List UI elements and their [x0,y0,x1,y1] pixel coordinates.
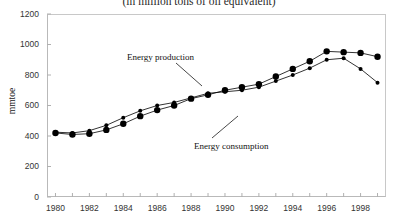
data-point-production [359,67,363,71]
data-series-layer [52,48,380,138]
data-point-consumption [323,48,329,54]
annotation-energy-consumption: Energy consumption [194,141,269,151]
annotation-leader-lines [176,63,238,138]
energy-chart: (in million tons of oil equivalent) mmto… [0,0,398,220]
leader-line-production [176,63,202,86]
chart-canvas [0,0,398,220]
data-point-consumption [188,95,194,101]
data-point-consumption [256,81,262,87]
data-point-consumption [239,84,245,90]
data-point-production [308,66,312,70]
data-point-consumption [171,102,177,108]
data-point-consumption [273,73,279,79]
data-point-production [121,116,125,120]
data-point-consumption [137,113,143,119]
axis-ticks [47,14,378,197]
data-point-consumption [103,127,109,133]
data-point-consumption [290,66,296,72]
data-point-consumption [357,50,363,56]
data-point-consumption [120,121,126,127]
data-point-consumption [222,87,228,93]
data-point-production [138,109,142,113]
data-point-consumption [374,54,380,60]
data-point-consumption [340,49,346,55]
data-point-consumption [86,131,92,137]
series-line-production [55,58,377,133]
data-point-production [376,81,380,85]
data-point-production [342,56,346,60]
data-point-consumption [205,92,211,98]
annotation-energy-production: Energy production [127,52,194,62]
data-point-consumption [154,107,160,113]
data-point-consumption [307,58,313,64]
series-line-consumption [55,51,377,134]
data-point-production [325,58,329,62]
data-point-production [291,73,295,77]
leader-line-consumption [212,116,238,138]
data-point-consumption [52,130,58,136]
data-point-consumption [69,131,75,137]
